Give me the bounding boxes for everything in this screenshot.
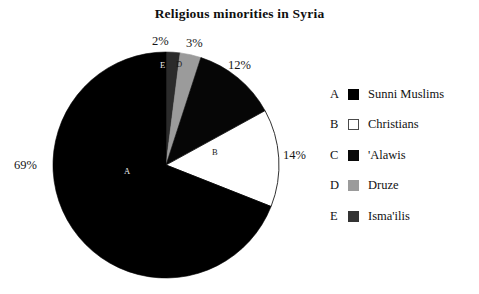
pie-key-letter-b: B	[212, 147, 218, 157]
legend-swatch-alawis	[348, 150, 359, 161]
legend-key-c: C	[330, 148, 348, 163]
pie-value-label-isma-ilis: 2%	[152, 34, 169, 49]
legend-label-christians: Christians	[368, 117, 419, 132]
legend-swatch-sunni-muslims	[348, 89, 359, 100]
chart-legend: A Sunni Muslims B Christians C 'Alawis D…	[330, 79, 476, 232]
pie-key-letter-d: D	[176, 59, 182, 69]
legend-key-b: B	[330, 117, 348, 132]
pie-chart	[52, 50, 280, 282]
legend-label-isma-ilis: Isma'ilis	[368, 209, 410, 224]
legend-item-alawis[interactable]: C 'Alawis	[330, 140, 476, 171]
legend-key-e: E	[330, 209, 348, 224]
pie-value-label-druze: 3%	[186, 36, 203, 51]
legend-label-sunni-muslims: Sunni Muslims	[368, 87, 444, 102]
legend-item-christians[interactable]: B Christians	[330, 110, 476, 141]
legend-swatch-isma-ilis	[348, 211, 359, 222]
legend-label-alawis: 'Alawis	[368, 148, 406, 163]
pie-key-letter-e: E	[160, 60, 166, 70]
legend-key-a: A	[330, 87, 348, 102]
legend-item-druze[interactable]: D Druze	[330, 171, 476, 202]
pie-value-label-sunni: 69%	[14, 158, 37, 173]
legend-item-isma-ilis[interactable]: E Isma'ilis	[330, 201, 476, 232]
legend-item-sunni-muslims[interactable]: A Sunni Muslims	[330, 79, 476, 110]
legend-swatch-christians	[348, 119, 359, 130]
legend-label-druze: Druze	[368, 178, 399, 193]
pie-value-label-christians: 14%	[283, 148, 306, 163]
legend-swatch-druze	[348, 180, 359, 191]
pie-chart-svg	[52, 50, 280, 282]
pie-value-label-alawis: 12%	[228, 58, 251, 73]
pie-key-letter-a: A	[124, 166, 130, 176]
page-title: Religious minorities in Syria	[0, 6, 479, 22]
legend-key-d: D	[330, 178, 348, 193]
